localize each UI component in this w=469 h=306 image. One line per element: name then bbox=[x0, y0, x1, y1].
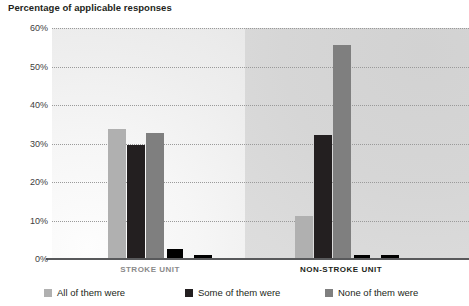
y-axis-tick-label: 10% bbox=[4, 216, 48, 226]
legend-item-none[interactable]: None of them were bbox=[325, 287, 418, 298]
gridline bbox=[52, 67, 469, 68]
bar bbox=[108, 129, 126, 259]
legend-label-none: None of them were bbox=[338, 287, 418, 298]
bar bbox=[127, 145, 145, 259]
y-axis-tick-label: 60% bbox=[4, 23, 48, 33]
legend-item-some[interactable]: Some of them were bbox=[185, 287, 280, 298]
gridline bbox=[52, 105, 469, 106]
bar bbox=[314, 135, 332, 259]
bar bbox=[333, 45, 351, 259]
bar bbox=[295, 216, 313, 260]
y-axis-tick-label: 40% bbox=[4, 100, 48, 110]
chart-legend: All of them were Some of them were None … bbox=[0, 287, 469, 306]
y-axis-tick-label: 0% bbox=[4, 254, 48, 264]
bar bbox=[146, 133, 164, 259]
x-axis-label-non-stroke-unit: NON-STROKE UNIT bbox=[300, 265, 382, 274]
gridline bbox=[52, 28, 469, 29]
y-axis-tick-label: 50% bbox=[4, 62, 48, 72]
y-axis-tick-label: 20% bbox=[4, 177, 48, 187]
chart-title: Percentage of applicable responses bbox=[8, 2, 172, 13]
y-axis: 60%50%40%30%20%10%0% bbox=[0, 28, 48, 259]
legend-swatch-all-icon bbox=[44, 289, 52, 297]
legend-swatch-none-icon bbox=[325, 289, 333, 297]
x-axis-label-stroke-unit: STROKE UNIT bbox=[120, 265, 180, 274]
legend-label-all: All of them were bbox=[57, 287, 125, 298]
legend-swatch-some-icon bbox=[185, 289, 193, 297]
x-axis-line bbox=[46, 258, 469, 260]
y-axis-tick-label: 30% bbox=[4, 139, 48, 149]
legend-label-some: Some of them were bbox=[198, 287, 280, 298]
plot-area bbox=[52, 28, 469, 259]
legend-item-all[interactable]: All of them were bbox=[44, 287, 125, 298]
